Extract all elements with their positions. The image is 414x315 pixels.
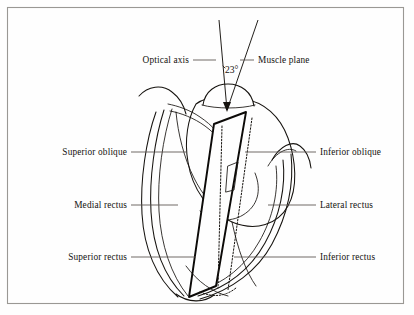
eye-muscle-diagram: 23° xyxy=(0,0,414,315)
label-inferior-rectus: Inferior rectus xyxy=(320,252,375,262)
medial-rectus-group xyxy=(142,109,188,297)
label-superior-rectus: Superior rectus xyxy=(68,252,127,262)
label-lateral-rectus: Lateral rectus xyxy=(320,200,373,210)
label-inferior-oblique: Inferior oblique xyxy=(320,147,381,157)
medial-rectus-outer-edge xyxy=(142,112,178,297)
label-medial-rectus: Medial rectus xyxy=(74,200,127,210)
label-optical-axis: Optical axis xyxy=(143,55,190,65)
angle-label: 23° xyxy=(225,64,239,75)
figure-root: 23° xyxy=(0,0,414,315)
medial-rectus-mid-line xyxy=(159,109,188,296)
label-muscle-plane: Muscle plane xyxy=(258,55,310,65)
superior-oblique-trochlea-hook xyxy=(139,87,186,114)
label-superior-oblique: Superior oblique xyxy=(62,147,127,157)
